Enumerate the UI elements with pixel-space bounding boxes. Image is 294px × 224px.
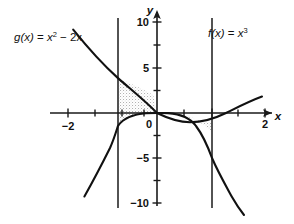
- y-tick-label-5: 5: [143, 62, 149, 74]
- y-tick-label-0: 0: [146, 118, 152, 130]
- function-label-g-eq: =: [34, 31, 47, 43]
- function-label-f: f(x) = x3: [208, 26, 248, 39]
- function-label-g-rest: − 2x: [57, 31, 83, 43]
- y-axis-name: y: [146, 4, 154, 16]
- x-tick-label-neg2: −2: [62, 120, 75, 132]
- x-axis-name: x: [274, 110, 282, 122]
- shaded-regions: [118, 78, 212, 133]
- function-label-g-name: g(x): [14, 31, 34, 43]
- function-label-g: g(x) = x2 − 2x: [14, 30, 82, 43]
- function-plot-svg: y x 10 5 0 −5 −10 −2 2 g(x) = x2 − 2x f(…: [0, 0, 294, 224]
- y-tick-label-neg10: −10: [130, 197, 149, 209]
- curve-g-parabola: [73, 30, 262, 123]
- y-tick-label-neg5: −5: [136, 152, 149, 164]
- graph-figure: y x 10 5 0 −5 −10 −2 2 g(x) = x2 − 2x f(…: [0, 0, 294, 224]
- y-tick-label-10: 10: [137, 16, 149, 28]
- function-label-f-exponent: 3: [243, 26, 247, 35]
- x-tick-label-2: 2: [262, 118, 268, 130]
- curve-f-cubic: [84, 113, 244, 215]
- function-label-f-eq: =: [225, 27, 238, 39]
- function-label-f-name: f(x): [208, 27, 225, 39]
